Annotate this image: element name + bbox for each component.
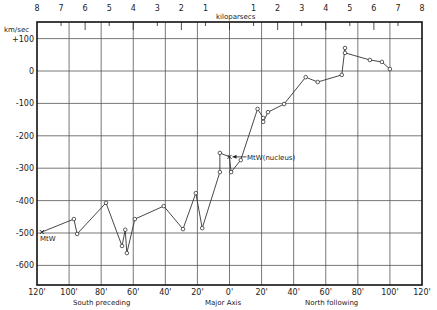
kpc-tick-label: 4 bbox=[131, 4, 136, 13]
kpc-tick-label: 2 bbox=[275, 4, 280, 13]
velocity-line bbox=[42, 48, 390, 253]
data-point bbox=[261, 120, 265, 124]
data-point bbox=[181, 227, 185, 231]
kiloparsecs-label: kiloparsecs bbox=[216, 13, 256, 21]
kpc-tick-label: 5 bbox=[107, 4, 112, 13]
x-axis: 120'100'80'60'40'20'0'20'40'60'80'100'12… bbox=[28, 288, 430, 297]
kpc-tick-label: 1 bbox=[203, 4, 208, 13]
x-tick-label: 80' bbox=[95, 288, 107, 297]
north-following-label: North following bbox=[305, 299, 358, 307]
data-point bbox=[256, 107, 260, 111]
kpc-tick-label: 6 bbox=[371, 4, 376, 13]
data-point bbox=[340, 73, 344, 77]
x-tick-label: 40' bbox=[287, 288, 299, 297]
x-tick-label: 100' bbox=[60, 288, 77, 297]
kpc-tick-label: 4 bbox=[323, 4, 328, 13]
y-tick-label: -400 bbox=[16, 197, 34, 206]
cross-marker bbox=[40, 230, 44, 234]
mtw-annotation: MtW bbox=[40, 235, 56, 243]
x-tick-label: 80' bbox=[352, 288, 364, 297]
data-point bbox=[343, 51, 347, 55]
kpc-tick-label: 8 bbox=[34, 4, 39, 13]
y-tick-label: -300 bbox=[16, 164, 34, 173]
chart-canvas: 8765432112345678 +1000-100-200-300-400-5… bbox=[0, 0, 437, 310]
y-tick-label: 0 bbox=[29, 67, 34, 76]
data-point bbox=[229, 170, 233, 174]
data-point bbox=[316, 80, 320, 84]
data-point bbox=[388, 67, 392, 71]
data-point bbox=[368, 58, 372, 62]
gridlines bbox=[37, 22, 422, 285]
data-point bbox=[239, 158, 243, 162]
x-tick-label: 0' bbox=[226, 288, 233, 297]
y-tick-label: -600 bbox=[16, 261, 34, 270]
kpc-tick-label: 2 bbox=[179, 4, 184, 13]
x-tick-label: 60' bbox=[127, 288, 139, 297]
kpc-tick-label: 8 bbox=[419, 4, 424, 13]
data-point bbox=[120, 244, 124, 248]
x-tick-label: 100' bbox=[381, 288, 398, 297]
rotation-curve-figure: 8765432112345678 +1000-100-200-300-400-5… bbox=[0, 0, 437, 310]
nucleus-annotation: MtW(nucleus) bbox=[247, 154, 295, 162]
data-point bbox=[162, 204, 166, 208]
data-point bbox=[304, 75, 308, 79]
x-tick-label: 20' bbox=[255, 288, 267, 297]
kpc-tick-label: 7 bbox=[395, 4, 400, 13]
data-point bbox=[380, 60, 384, 64]
kpc-tick-label: 3 bbox=[155, 4, 160, 13]
arrowhead-icon bbox=[233, 155, 237, 159]
data-point bbox=[133, 217, 137, 221]
data-point bbox=[125, 251, 129, 255]
kpc-tick-label: 3 bbox=[299, 4, 304, 13]
kpc-tick-label: 7 bbox=[59, 4, 64, 13]
data-point bbox=[266, 110, 270, 114]
y-tick-label: -500 bbox=[16, 229, 34, 238]
data-point bbox=[200, 226, 204, 230]
y-tick-label: -100 bbox=[16, 99, 34, 108]
x-tick-label: 120' bbox=[413, 288, 430, 297]
data-point bbox=[104, 201, 108, 205]
data-point bbox=[123, 228, 127, 232]
kpc-tick-label: 5 bbox=[347, 4, 352, 13]
data-point bbox=[343, 46, 347, 50]
kpc-tick-label: 1 bbox=[251, 4, 256, 13]
x-tick-label: 60' bbox=[320, 288, 332, 297]
data-point bbox=[218, 170, 222, 174]
data-series bbox=[40, 46, 392, 255]
data-point bbox=[72, 217, 76, 221]
data-point bbox=[194, 191, 198, 195]
y-axis-unit: km/sec bbox=[4, 26, 29, 34]
x-tick-label: 40' bbox=[159, 288, 171, 297]
data-point bbox=[218, 151, 222, 155]
major-axis-label: Major Axis bbox=[205, 299, 242, 307]
data-point bbox=[282, 102, 286, 106]
y-tick-label: +100 bbox=[12, 35, 34, 44]
data-point bbox=[75, 232, 79, 236]
x-tick-label: 20' bbox=[191, 288, 203, 297]
y-axis: +1000-100-200-300-400-500-600 bbox=[12, 35, 34, 271]
south-preceding-label: South preceding bbox=[73, 299, 130, 307]
data-point bbox=[261, 116, 265, 120]
kpc-tick-label: 6 bbox=[83, 4, 88, 13]
x-tick-label: 120' bbox=[28, 288, 45, 297]
y-tick-label: -200 bbox=[16, 132, 34, 141]
